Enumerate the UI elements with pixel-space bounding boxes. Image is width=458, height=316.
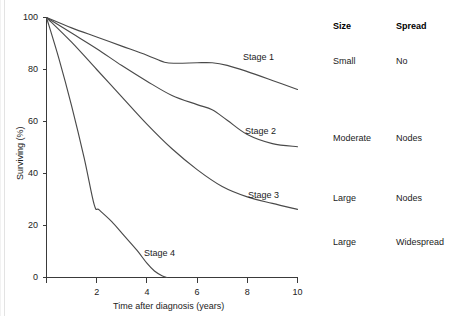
x-tick-label-8: 8 [237, 288, 257, 297]
table-row-4-size: Large [333, 238, 356, 247]
curve-stage-3 [47, 18, 298, 210]
y-tick-label-0: 0 [20, 273, 38, 282]
table-row-3-spread: Nodes [396, 194, 422, 203]
table-header-spread: Spread [396, 22, 427, 31]
x-axis-title: Time after diagnosis (years) [113, 302, 224, 311]
series-label-stage-1: Stage 1 [243, 53, 274, 62]
table-row-1-spread: No [396, 57, 408, 66]
y-tick-label-100: 100 [20, 13, 38, 22]
table-row-2-size: Moderate [333, 134, 371, 143]
x-tick-label-6: 6 [187, 288, 207, 297]
table-row-2-spread: Nodes [396, 134, 422, 143]
series-label-stage-3: Stage 3 [248, 191, 279, 200]
table-row-4-spread: Widespread [396, 238, 444, 247]
x-tick-label-4: 4 [137, 288, 157, 297]
y-axis-title: Surviving (%) [16, 126, 25, 180]
y-tick-marks [43, 18, 47, 278]
series-label-stage-2: Stage 2 [245, 127, 276, 136]
survival-curve-plot [0, 0, 458, 316]
x-tick-marks [47, 278, 298, 283]
x-tick-label-10: 10 [288, 288, 308, 297]
figure-canvas: 100 80 60 40 20 0 2 4 6 8 10 Surviving (… [0, 0, 458, 316]
y-tick-label-80: 80 [20, 65, 38, 74]
series-label-stage-4: Stage 4 [144, 249, 175, 258]
table-row-1-size: Small [333, 57, 356, 66]
x-tick-label-2: 2 [87, 288, 107, 297]
y-tick-label-60: 60 [20, 117, 38, 126]
table-header-size: Size [333, 22, 351, 31]
table-row-3-size: Large [333, 194, 356, 203]
y-tick-label-20: 20 [20, 221, 38, 230]
